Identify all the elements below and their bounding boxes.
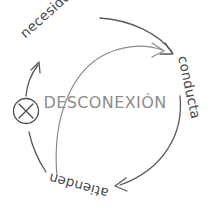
arc-atienden-to-marker [29, 132, 46, 172]
arrowhead-inner-arc [152, 43, 164, 57]
cycle-diagram: necesidad conducta atienden DESCONEXIÓN [0, 0, 210, 215]
center-label: DESCONEXIÓN [0, 93, 210, 112]
